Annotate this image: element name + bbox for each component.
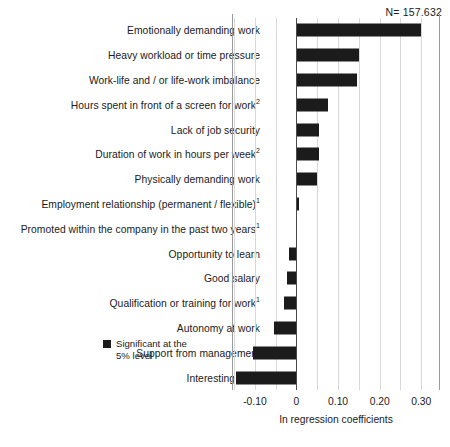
bar: [296, 98, 327, 111]
bar: [296, 24, 421, 37]
gridline: [380, 18, 381, 390]
bar: [287, 272, 297, 285]
gridline: [400, 18, 401, 390]
regression-coefficient-bar-chart: N= 157.632 Emotionally demanding workHea…: [0, 0, 450, 447]
gridline: [234, 18, 235, 390]
legend-swatch-significant: [103, 340, 111, 348]
bar: [236, 371, 296, 384]
bar: [289, 247, 296, 260]
bar: [296, 49, 358, 62]
gridline: [359, 18, 360, 390]
x-tick-label: 0.30: [411, 396, 431, 407]
category-label: Promoted within the company in the past …: [21, 223, 260, 234]
gridline: [421, 18, 422, 390]
bar: [296, 173, 317, 186]
bar: [284, 297, 296, 310]
legend: Significant at the 5% level: [103, 338, 188, 361]
plot-area: [232, 18, 440, 390]
bar: [296, 148, 319, 161]
bar: [296, 123, 319, 136]
bar: [296, 74, 356, 87]
x-tick-label: 0: [294, 396, 300, 407]
x-axis-tick-labels: -0.1000.100.200.30: [232, 396, 440, 410]
x-tick-label: 0.20: [370, 396, 390, 407]
plot-left-border: [232, 14, 233, 390]
x-axis-title: In regression coefficients: [232, 414, 440, 425]
sample-size-annotation: N= 157.632: [385, 6, 442, 18]
category-label-column: Emotionally demanding workHeavy workload…: [0, 18, 266, 390]
bar: [274, 322, 297, 335]
category-label: Employment relationship (permanent / fle…: [41, 199, 260, 210]
x-tick-label: -0.10: [243, 396, 266, 407]
zero-axis-line: [296, 18, 297, 390]
bar: [253, 346, 297, 359]
plot-right-border: [439, 14, 440, 390]
gridline: [255, 18, 256, 390]
x-tick-label: 0.10: [328, 396, 348, 407]
legend-label-significant: Significant at the 5% level: [116, 338, 188, 361]
